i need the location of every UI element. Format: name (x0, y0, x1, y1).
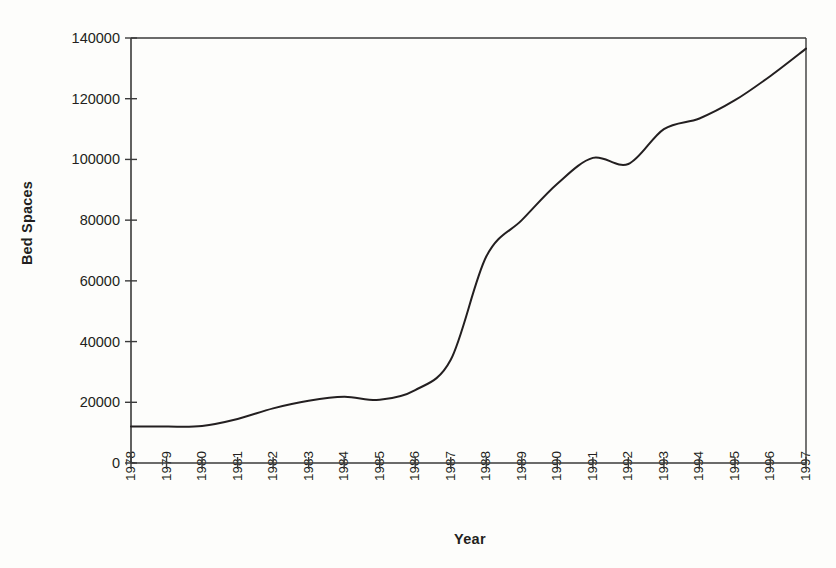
axis-ticks (125, 38, 806, 469)
chart-figure: Bed Spaces Year 020000400006000080000100… (0, 0, 836, 568)
axis-lines (131, 38, 806, 463)
plot-area (0, 0, 836, 568)
data-series-line (131, 49, 806, 427)
